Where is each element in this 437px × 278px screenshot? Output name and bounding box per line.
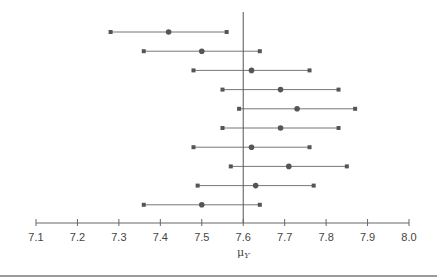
x-tick-label: 7.4 <box>153 231 168 243</box>
x-tick-label: 8.0 <box>401 231 416 243</box>
lower-bound-marker <box>191 68 195 72</box>
upper-bound-marker <box>337 126 341 130</box>
upper-bound-marker <box>308 145 312 149</box>
x-tick-label: 7.7 <box>277 231 292 243</box>
x-tick-label: 7.3 <box>111 231 126 243</box>
point-estimate-marker <box>278 125 284 131</box>
interval-row <box>191 68 311 74</box>
lower-bound-marker <box>142 49 146 53</box>
upper-bound-marker <box>258 203 262 207</box>
interval-row <box>229 164 349 170</box>
point-estimate-marker <box>199 202 205 208</box>
lower-bound-marker <box>221 88 225 92</box>
confidence-interval-chart: 7.17.27.37.47.57.67.77.87.98.0 μY <box>0 0 437 278</box>
interval-row <box>196 183 316 189</box>
point-estimate-marker <box>249 68 255 74</box>
interval-row <box>142 202 262 208</box>
point-estimate-marker <box>166 29 172 35</box>
upper-bound-marker <box>258 49 262 53</box>
lower-bound-marker <box>196 184 200 188</box>
x-tick-label: 7.2 <box>70 231 85 243</box>
interval-row <box>221 125 341 131</box>
upper-bound-marker <box>353 107 357 111</box>
x-axis-title: μY <box>237 246 250 260</box>
x-tick-label: 7.5 <box>194 231 209 243</box>
point-estimate-marker <box>294 106 300 112</box>
point-estimate-marker <box>253 183 259 189</box>
upper-bound-marker <box>308 68 312 72</box>
x-axis: 7.17.27.37.47.57.67.77.87.98.0 <box>28 219 416 243</box>
interval-row <box>142 48 262 54</box>
bottom-divider <box>0 275 437 277</box>
lower-bound-marker <box>229 164 233 168</box>
point-estimate-marker <box>249 144 255 150</box>
x-tick-label: 7.8 <box>318 231 333 243</box>
point-estimate-marker <box>286 164 292 170</box>
upper-bound-marker <box>312 184 316 188</box>
interval-row <box>237 106 357 112</box>
lower-bound-marker <box>142 203 146 207</box>
upper-bound-marker <box>225 30 229 34</box>
x-tick-label: 7.9 <box>360 231 375 243</box>
interval-row <box>191 144 311 150</box>
interval-row <box>221 87 341 93</box>
lower-bound-marker <box>109 30 113 34</box>
point-estimate-marker <box>278 87 284 93</box>
lower-bound-marker <box>221 126 225 130</box>
lower-bound-marker <box>237 107 241 111</box>
upper-bound-marker <box>337 88 341 92</box>
interval-row <box>109 29 229 35</box>
lower-bound-marker <box>191 145 195 149</box>
x-tick-label: 7.1 <box>28 231 43 243</box>
upper-bound-marker <box>345 164 349 168</box>
interval-group <box>109 29 358 207</box>
point-estimate-marker <box>199 48 205 54</box>
x-tick-label: 7.6 <box>236 231 251 243</box>
